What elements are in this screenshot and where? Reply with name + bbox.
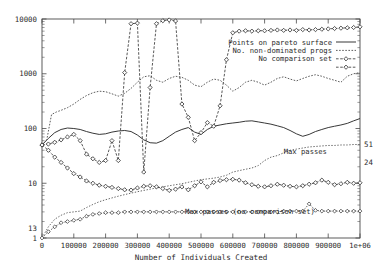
data-point-marker bbox=[136, 210, 140, 214]
data-point-marker bbox=[116, 158, 120, 162]
data-point-marker bbox=[91, 181, 95, 185]
data-point-marker bbox=[53, 155, 57, 159]
data-point-marker bbox=[65, 166, 69, 170]
data-point-marker bbox=[104, 158, 108, 162]
data-point-marker bbox=[256, 184, 260, 188]
chart-container: 1101001000100001301000002000003000004000… bbox=[0, 0, 385, 271]
data-point-marker bbox=[154, 22, 158, 26]
y-tick-label: 100 bbox=[24, 124, 37, 133]
data-point-marker bbox=[212, 124, 216, 128]
data-point-marker bbox=[256, 29, 260, 33]
data-point-marker bbox=[344, 57, 348, 61]
data-point-marker bbox=[352, 25, 356, 29]
data-point-marker bbox=[333, 209, 337, 213]
data-point-marker bbox=[243, 29, 247, 33]
data-point-marker bbox=[167, 18, 171, 22]
data-point-marker bbox=[104, 184, 108, 188]
data-point-marker bbox=[250, 29, 254, 33]
data-point-marker bbox=[173, 187, 177, 191]
x-tick-label: 900000 bbox=[315, 241, 341, 250]
data-point-marker bbox=[148, 210, 152, 214]
data-point-marker bbox=[231, 177, 235, 181]
data-point-marker bbox=[294, 28, 298, 32]
data-point-marker bbox=[237, 178, 241, 182]
y-tick-label-extra: 13 bbox=[28, 224, 37, 233]
data-point-marker bbox=[345, 180, 349, 184]
data-point-marker bbox=[148, 184, 152, 188]
data-point-marker bbox=[97, 212, 101, 216]
y-tick-label: 1000 bbox=[19, 69, 37, 78]
data-point-marker bbox=[269, 28, 273, 32]
chart-annotation: Max passes bbox=[284, 147, 327, 156]
data-point-marker bbox=[85, 214, 89, 218]
data-point-marker bbox=[116, 211, 120, 215]
data-point-marker bbox=[294, 185, 298, 189]
data-point-marker bbox=[320, 209, 324, 213]
data-point-marker bbox=[110, 139, 114, 143]
data-point-marker bbox=[123, 70, 127, 74]
data-point-marker bbox=[78, 217, 82, 221]
data-point-marker bbox=[275, 182, 279, 186]
data-point-marker bbox=[53, 140, 57, 144]
data-point-marker bbox=[288, 28, 292, 32]
data-point-marker bbox=[129, 188, 133, 192]
data-point-marker bbox=[243, 181, 247, 185]
data-point-marker bbox=[307, 182, 311, 186]
x-tick-label: 300000 bbox=[124, 241, 150, 250]
data-point-marker bbox=[155, 210, 159, 214]
data-point-marker bbox=[205, 121, 209, 125]
data-point-marker bbox=[72, 218, 76, 222]
data-point-marker bbox=[326, 209, 330, 213]
data-point-marker bbox=[167, 210, 171, 214]
data-point-marker bbox=[180, 185, 184, 189]
data-point-marker bbox=[250, 183, 254, 187]
data-point-marker bbox=[59, 160, 63, 164]
data-point-marker bbox=[358, 209, 362, 213]
chart-annotation: Max passes (no comparison set) bbox=[185, 207, 315, 216]
x-axis-label: Number of Individuals Created bbox=[135, 253, 268, 262]
data-point-marker bbox=[78, 139, 82, 143]
data-point-marker bbox=[282, 28, 286, 32]
data-point-marker bbox=[135, 186, 139, 190]
data-point-marker bbox=[97, 160, 101, 164]
x-tick-label: 100000 bbox=[61, 241, 87, 250]
legend-label: No comparison set bbox=[258, 54, 332, 63]
x-tick-label: 200000 bbox=[93, 241, 119, 250]
data-point-marker bbox=[326, 180, 330, 184]
data-point-marker bbox=[66, 220, 70, 224]
data-point-marker bbox=[320, 178, 324, 182]
data-point-marker bbox=[326, 27, 330, 31]
data-point-marker bbox=[123, 210, 127, 214]
data-point-marker bbox=[282, 183, 286, 187]
data-point-marker bbox=[339, 26, 343, 30]
data-point-marker bbox=[269, 184, 273, 188]
data-point-marker bbox=[104, 211, 108, 215]
data-point-marker bbox=[110, 185, 114, 189]
data-point-marker bbox=[224, 178, 228, 182]
data-point-marker bbox=[358, 181, 362, 185]
data-point-marker bbox=[237, 29, 241, 33]
data-point-marker bbox=[231, 31, 235, 35]
data-point-marker bbox=[275, 28, 279, 32]
series-end-label: 24 bbox=[364, 158, 373, 167]
data-point-marker bbox=[148, 85, 152, 89]
data-point-marker bbox=[78, 175, 82, 179]
data-point-marker bbox=[263, 29, 267, 33]
annotations-group: Max passesMax passes (no comparison set)… bbox=[185, 140, 373, 215]
data-point-marker bbox=[332, 26, 336, 30]
data-point-marker bbox=[167, 188, 171, 192]
data-point-marker bbox=[116, 186, 120, 190]
y-tick-label: 10 bbox=[28, 179, 37, 188]
data-point-marker bbox=[186, 188, 190, 192]
y-tick-label: 10000 bbox=[15, 15, 37, 24]
log-line-chart: 1101001000100001301000002000003000004000… bbox=[0, 0, 385, 271]
data-point-marker bbox=[180, 102, 184, 106]
data-point-marker bbox=[135, 21, 139, 25]
data-point-marker bbox=[288, 184, 292, 188]
x-tick-label: 400000 bbox=[156, 241, 182, 250]
data-point-marker bbox=[218, 104, 222, 108]
data-point-marker bbox=[123, 188, 127, 192]
data-point-marker bbox=[339, 182, 343, 186]
data-point-marker bbox=[199, 180, 203, 184]
data-point-marker bbox=[186, 115, 190, 119]
